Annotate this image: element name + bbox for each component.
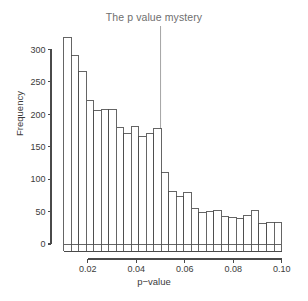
histogram-bar bbox=[116, 127, 124, 244]
histogram-bar bbox=[267, 223, 275, 244]
x-axis-tick-label: 0.08 bbox=[225, 264, 243, 274]
histogram-bar bbox=[169, 191, 177, 244]
histogram-bar bbox=[79, 72, 87, 244]
x-axis-tick-label: 0.06 bbox=[176, 264, 194, 274]
histogram-bars bbox=[64, 38, 282, 244]
y-axis-tick-label: 200 bbox=[30, 110, 45, 120]
histogram-bar bbox=[199, 213, 207, 244]
y-axis-tick-label: 150 bbox=[30, 142, 45, 152]
histogram-bar bbox=[221, 216, 229, 244]
histogram-bar bbox=[176, 197, 184, 244]
histogram-bar bbox=[184, 192, 192, 244]
x-axis-tick-label: 0.02 bbox=[79, 264, 97, 274]
y-axis-tick-label: 250 bbox=[30, 77, 45, 87]
x-axis-minor-ticks bbox=[64, 245, 282, 251]
histogram-bar bbox=[251, 211, 259, 244]
y-axis-tick-label: 100 bbox=[30, 174, 45, 184]
y-axis-tick-label: 50 bbox=[35, 207, 45, 217]
histogram-bar bbox=[191, 208, 199, 244]
y-axis: 050100150200250300 bbox=[30, 45, 51, 250]
histogram-bar bbox=[86, 100, 94, 244]
histogram-bar bbox=[161, 173, 169, 244]
histogram-bar bbox=[146, 133, 154, 244]
histogram-bar bbox=[109, 109, 117, 244]
histogram-bar bbox=[229, 217, 237, 244]
histogram-bar bbox=[124, 133, 132, 244]
histogram-bar bbox=[101, 109, 109, 244]
histogram-bar bbox=[259, 224, 267, 244]
plot-area: 050100150200250300 0.020.040.060.080.10 bbox=[0, 0, 308, 301]
x-axis-tick-label: 0.10 bbox=[273, 264, 291, 274]
histogram-bar bbox=[244, 215, 252, 244]
histogram-bar bbox=[206, 212, 214, 244]
histogram-bar bbox=[71, 56, 79, 244]
x-axis: 0.020.040.060.080.10 bbox=[79, 259, 291, 274]
histogram-bar bbox=[214, 211, 222, 244]
histogram-bar bbox=[131, 127, 139, 244]
histogram-bar bbox=[64, 38, 72, 244]
x-axis-tick-label: 0.04 bbox=[128, 264, 146, 274]
histogram-bar bbox=[236, 218, 244, 244]
y-axis-tick-label: 0 bbox=[40, 239, 45, 249]
histogram-bar bbox=[94, 110, 102, 244]
y-axis-tick-label: 300 bbox=[30, 45, 45, 55]
histogram-bar bbox=[139, 136, 147, 244]
histogram-bar bbox=[154, 129, 162, 244]
histogram-figure: The p value mystery Frequency p−value 05… bbox=[0, 0, 308, 301]
histogram-bar bbox=[274, 223, 282, 244]
